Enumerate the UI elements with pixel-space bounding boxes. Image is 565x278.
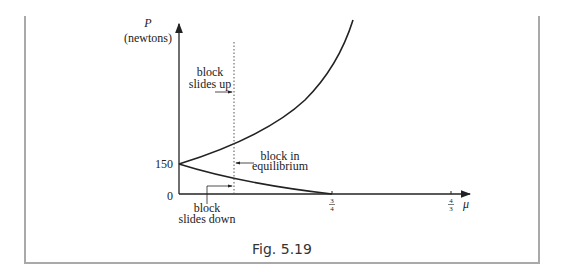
x-tick-3-4-den: 4 bbox=[330, 205, 334, 213]
annotation-slides-up-line2: slides up bbox=[189, 77, 231, 91]
x-tick-4-3-den: 3 bbox=[449, 205, 453, 213]
upper-curve bbox=[179, 20, 353, 164]
y-axis-unit: (newtons) bbox=[124, 31, 172, 45]
x-axis-label: μ bbox=[462, 197, 469, 211]
y-axis-label: P bbox=[143, 16, 152, 30]
annotation-slides-down-line2: slides down bbox=[179, 212, 236, 226]
annotation-equilibrium-line2: equilibrium bbox=[252, 159, 309, 173]
chart: P (newtons) 150 0 3 4 4 3 μ block slides… bbox=[0, 0, 565, 278]
x-tick-3-4-num: 3 bbox=[330, 197, 334, 205]
y-tick-0: 0 bbox=[167, 189, 173, 203]
figure-caption: Fig. 5.19 bbox=[252, 241, 312, 257]
x-tick-4-3-num: 4 bbox=[449, 197, 453, 205]
y-tick-150: 150 bbox=[155, 157, 173, 171]
